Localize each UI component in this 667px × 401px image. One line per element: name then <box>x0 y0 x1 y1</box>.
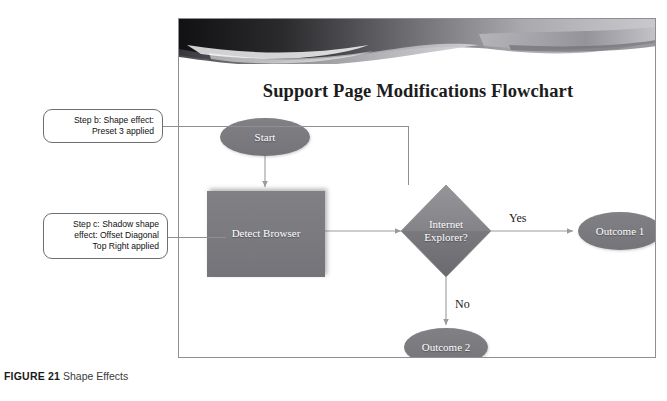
callout-step-b: Step b: Shape effect: Preset 3 applied <box>43 109 163 143</box>
leader-line-step-b-horizontal <box>160 126 409 127</box>
figure-number: FIGURE 21 <box>4 370 60 382</box>
figure-caption: FIGURE 21 Shape Effects <box>4 370 128 382</box>
node-decision-shape <box>401 185 491 277</box>
slide-frame: Support Page Modifications Flowchart <box>178 18 656 358</box>
flowchart-canvas <box>179 19 656 358</box>
callout-step-c: Step c: Shadow shape effect: Offset Diag… <box>43 213 168 259</box>
callout-step-c-line1: Step c: Shadow shape <box>50 219 159 230</box>
callout-step-c-line3: Top Right applied <box>50 241 159 252</box>
leader-line-step-c-horizontal <box>166 237 226 238</box>
leader-line-step-b-vertical <box>408 126 409 185</box>
callout-step-b-line1: Step b: Shape effect: <box>50 115 154 126</box>
edge-label-yes: Yes <box>509 211 526 226</box>
node-detect-shape <box>207 191 325 277</box>
callout-step-c-line2: effect: Offset Diagonal <box>50 230 159 241</box>
figure-caption-text: Shape Effects <box>63 370 128 382</box>
node-outcome2-shape <box>404 328 488 358</box>
node-outcome1-shape <box>578 212 656 250</box>
node-start-shape <box>220 118 310 156</box>
figure-container: Support Page Modifications Flowchart <box>0 0 667 401</box>
edge-label-no: No <box>455 297 470 312</box>
callout-step-b-line2: Preset 3 applied <box>50 126 154 137</box>
